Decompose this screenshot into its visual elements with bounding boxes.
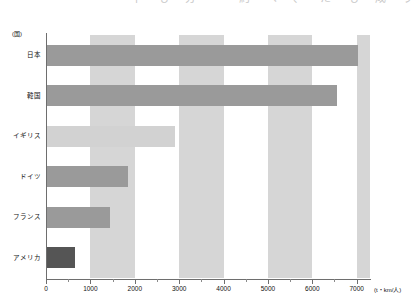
category-label: アメリカ bbox=[0, 254, 41, 261]
bar-row bbox=[46, 166, 370, 187]
x-tick-label: 3000 bbox=[172, 285, 186, 293]
bar bbox=[46, 166, 128, 187]
category-label: ドイツ bbox=[0, 173, 41, 180]
category-label: 韓国 bbox=[0, 92, 41, 99]
x-tick bbox=[46, 279, 47, 284]
bar-row bbox=[46, 207, 370, 228]
x-tick-label: 4000 bbox=[216, 285, 230, 293]
x-minor-tick bbox=[246, 279, 247, 282]
bar-row bbox=[46, 45, 370, 66]
bar bbox=[46, 85, 337, 106]
cropped-page-text: 一 十 も 分 一 約 べ 、 た も 成 り 1 2 の 計 bbox=[0, 0, 417, 16]
x-tick-label: 2000 bbox=[128, 285, 142, 293]
chart-figure: 一 十 も 分 一 約 べ 、 た も 成 り 1 2 の 計 (国) 日本韓国… bbox=[0, 0, 417, 302]
bar bbox=[46, 126, 175, 147]
x-tick-label: 5000 bbox=[261, 285, 275, 293]
x-minor-tick bbox=[157, 279, 158, 282]
x-axis-unit-label: (t・km/人) bbox=[374, 285, 401, 294]
bar bbox=[46, 247, 75, 268]
category-label: イギリス bbox=[0, 132, 41, 139]
bar-row bbox=[46, 247, 370, 268]
x-tick-label: 6000 bbox=[305, 285, 319, 293]
x-tick bbox=[90, 279, 91, 284]
x-tick bbox=[179, 279, 180, 284]
x-minor-tick bbox=[290, 279, 291, 282]
y-axis-line bbox=[46, 33, 47, 280]
plot-area bbox=[46, 35, 370, 278]
x-tick-label: 0 bbox=[44, 285, 48, 293]
x-minor-tick bbox=[334, 279, 335, 282]
bar-rows bbox=[46, 35, 370, 278]
category-labels: 日本韓国イギリスドイツフランスアメリカ bbox=[0, 35, 44, 278]
x-minor-tick bbox=[68, 279, 69, 282]
bar-row bbox=[46, 126, 370, 147]
x-minor-tick bbox=[113, 279, 114, 282]
bar-row bbox=[46, 85, 370, 106]
x-tick bbox=[357, 279, 358, 284]
x-tick bbox=[135, 279, 136, 284]
bar bbox=[46, 207, 110, 228]
x-tick-label: 1000 bbox=[83, 285, 97, 293]
bar bbox=[46, 45, 358, 66]
category-label: フランス bbox=[0, 213, 41, 220]
x-tick bbox=[224, 279, 225, 284]
x-tick bbox=[268, 279, 269, 284]
x-axis-ticks: 01000200030004000500060007000 bbox=[0, 279, 417, 299]
x-tick bbox=[312, 279, 313, 284]
x-minor-tick bbox=[201, 279, 202, 282]
category-label: 日本 bbox=[0, 51, 41, 58]
x-tick-label: 7000 bbox=[349, 285, 363, 293]
